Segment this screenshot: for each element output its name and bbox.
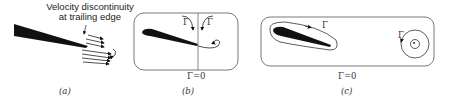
total-circulation-label: Γ=0 bbox=[338, 71, 356, 81]
starting-vortex-spiral bbox=[198, 40, 220, 48]
panel-c bbox=[261, 17, 434, 66]
starting-vortex-inner bbox=[411, 40, 420, 49]
panel-a bbox=[14, 24, 116, 64]
vortex-center-dot bbox=[413, 42, 415, 44]
caption-c: (c) bbox=[341, 86, 352, 96]
circulation-label-vortex: Γ bbox=[398, 30, 404, 40]
circulation-label-right: Γ bbox=[207, 17, 213, 27]
annotation-text: Velocity discontinuity at trailing edge bbox=[40, 2, 140, 22]
annotation-pointer bbox=[84, 25, 86, 34]
caption-a: (a) bbox=[59, 86, 71, 96]
airfoil bbox=[142, 29, 198, 46]
panel-c-frame bbox=[261, 17, 434, 66]
airfoil-trailing-edge bbox=[14, 24, 88, 48]
circulation-label-left: Γ bbox=[183, 17, 189, 27]
velocity-arrows-upper bbox=[86, 35, 104, 47]
annotation-line-2: at trailing edge bbox=[40, 12, 140, 22]
caption-b: (b) bbox=[182, 86, 194, 96]
velocity-arrows-lower bbox=[82, 50, 111, 64]
starting-vortex-outer bbox=[401, 30, 429, 58]
circulation-label-airfoil: Γ bbox=[322, 20, 328, 30]
small-vortex-icon bbox=[110, 49, 116, 57]
total-circulation-label: Γ=0 bbox=[187, 71, 205, 81]
